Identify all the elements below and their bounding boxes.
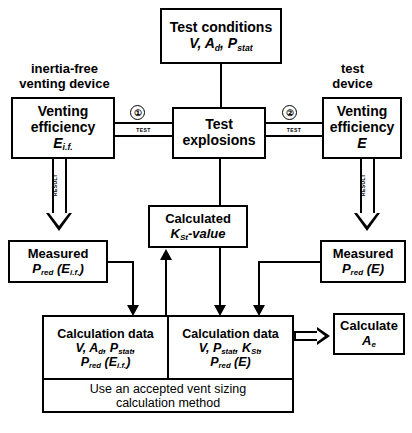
result-tag-left: RESULT xyxy=(52,170,58,200)
caption-right-device: test device xyxy=(300,62,405,91)
divider-calc-panes xyxy=(167,317,169,379)
connector-test-right: TEST xyxy=(265,122,323,137)
result-tag-right: RESULT xyxy=(360,170,366,200)
connector-test-left: TEST xyxy=(114,122,173,137)
marker-1: ① xyxy=(130,105,145,120)
box-test-conditions: Test conditions V, Ad, Pstat xyxy=(160,8,282,64)
test-conditions-params: V, Ad, Pstat xyxy=(189,36,252,52)
connector-measured-left-h xyxy=(106,261,134,263)
connector-measured-left-v xyxy=(132,261,134,311)
marker-2: ② xyxy=(282,105,297,120)
box-test-explosions: Test explosions xyxy=(172,107,266,159)
box-calculation-data-right: Calculation data V, Pstat, KSt, Pred (E) xyxy=(169,317,292,378)
box-venting-efficiency-right: Venting efficiency E xyxy=(322,97,402,159)
connector-measured-right-h xyxy=(258,261,322,263)
box-calculated-kst: Calculated KSt-value xyxy=(148,205,248,248)
box-method: Use an accepted vent sizing calculation … xyxy=(44,380,292,411)
connector-kst-stem xyxy=(165,259,167,320)
caption-left-device: inertia-free venting device xyxy=(2,62,127,91)
divider-method-row xyxy=(44,378,292,380)
box-measured-right: Measured Pred (E) xyxy=(320,240,406,283)
test-tag-left: TEST xyxy=(136,127,150,133)
box-calculate-ae: Calculate Ae xyxy=(333,313,405,355)
box-measured-left: Measured Pred (Ei.f.) xyxy=(8,240,108,283)
connector-conditions-to-explosions xyxy=(220,64,222,107)
box-venting-efficiency-left: Venting efficiency Ei.f. xyxy=(11,97,115,159)
arrowhead-into-kst xyxy=(160,249,172,260)
box-calculation-data-left: Calculation data V, Ad, Pstat, Pred (Ei.… xyxy=(44,317,167,378)
flowchart-diagram: Test conditions V, Ad, Pstat inertia-fre… xyxy=(0,0,412,433)
test-tag-right: TEST xyxy=(287,127,301,133)
test-conditions-title: Test conditions xyxy=(170,20,272,36)
connector-measured-right-v xyxy=(258,261,260,311)
